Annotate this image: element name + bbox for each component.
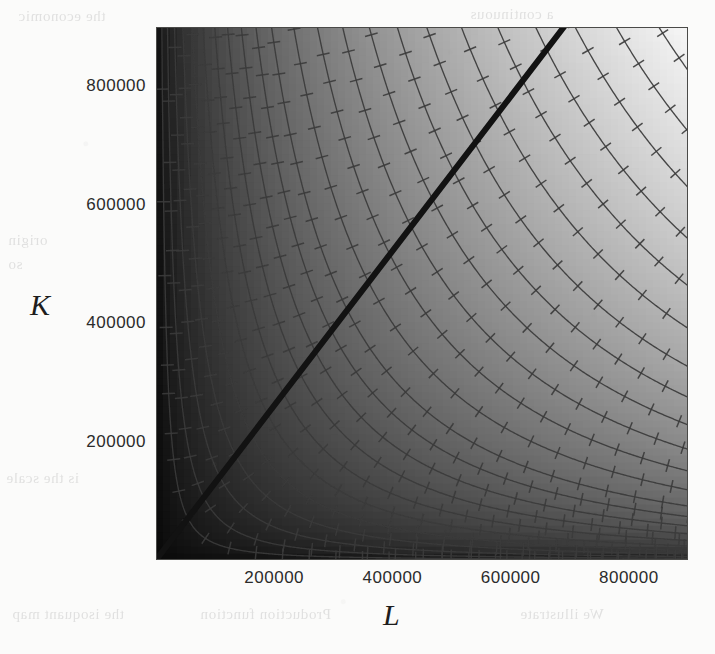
hatch-mark	[679, 533, 680, 546]
hatch-mark	[655, 538, 656, 551]
hatch-mark	[309, 550, 310, 560]
hatch-mark	[596, 535, 597, 548]
hatch-mark	[189, 84, 202, 85]
hatch-mark	[201, 100, 214, 101]
hatch-mark	[179, 290, 192, 291]
ghost-text: a continuous	[470, 6, 553, 23]
hatch-mark	[212, 68, 225, 69]
hatch-mark	[167, 283, 180, 284]
hatch-mark	[196, 195, 209, 196]
hatch-mark	[174, 200, 187, 201]
hatch-mark	[162, 393, 175, 394]
ghost-text: Production function	[200, 606, 331, 623]
scanned-page: the economica continuousoriginsois the s…	[0, 0, 715, 654]
hatch-mark	[556, 539, 557, 552]
ghost-text: We illustrate	[520, 606, 604, 623]
hatch-mark	[496, 542, 497, 555]
hatch-mark	[181, 143, 194, 144]
y-tick-label: 400000	[86, 313, 146, 333]
y-tick-label: 600000	[86, 195, 146, 215]
isoquant-contour-svg	[156, 27, 688, 560]
hatch-mark	[675, 526, 676, 539]
hatch-mark	[383, 541, 384, 554]
ghost-text: the economic	[18, 8, 106, 25]
x-tick-label: 400000	[363, 568, 423, 588]
hatch-mark	[204, 132, 217, 133]
ghost-text: the isoquant map	[12, 606, 124, 623]
hatch-mark	[470, 540, 471, 553]
hatch-mark	[584, 540, 585, 553]
hatch-mark	[339, 545, 340, 558]
x-tick-label: 800000	[599, 568, 659, 588]
hatch-mark	[523, 543, 524, 556]
hatch-mark	[209, 37, 222, 38]
y-tick-label: 200000	[86, 432, 146, 452]
hatch-mark	[191, 127, 204, 128]
hatch-mark	[194, 163, 207, 164]
hatch-mark	[612, 541, 613, 554]
plot-area	[156, 27, 688, 560]
hatch-mark	[186, 34, 199, 35]
ghost-text: is the scale	[6, 470, 79, 487]
hatch-mark	[413, 543, 414, 556]
hatch-mark	[176, 250, 189, 251]
hatch-mark	[199, 64, 212, 65]
y-axis-title: K	[30, 288, 50, 322]
hatch-mark	[567, 533, 568, 546]
y-tick-label: 800000	[86, 76, 146, 96]
hatch-mark	[625, 530, 626, 543]
hatch-mark	[186, 226, 199, 227]
hatch-mark	[442, 545, 443, 558]
hatch-mark	[170, 333, 183, 334]
x-tick-label: 600000	[481, 568, 541, 588]
hatch-mark	[180, 117, 193, 118]
ghost-text: so	[8, 256, 23, 273]
hatch-mark	[172, 370, 185, 371]
x-axis-title: L	[383, 598, 400, 632]
ghost-text: origin	[8, 232, 47, 249]
hatch-mark	[367, 547, 368, 560]
hatch-mark	[652, 532, 653, 545]
hatch-mark	[528, 537, 529, 550]
hatch-mark	[165, 433, 178, 434]
hatch-mark	[184, 189, 197, 190]
hatch-mark	[684, 539, 685, 552]
x-tick-label: 200000	[244, 568, 304, 588]
hatch-mark	[500, 535, 501, 548]
hatch-mark	[179, 88, 192, 89]
